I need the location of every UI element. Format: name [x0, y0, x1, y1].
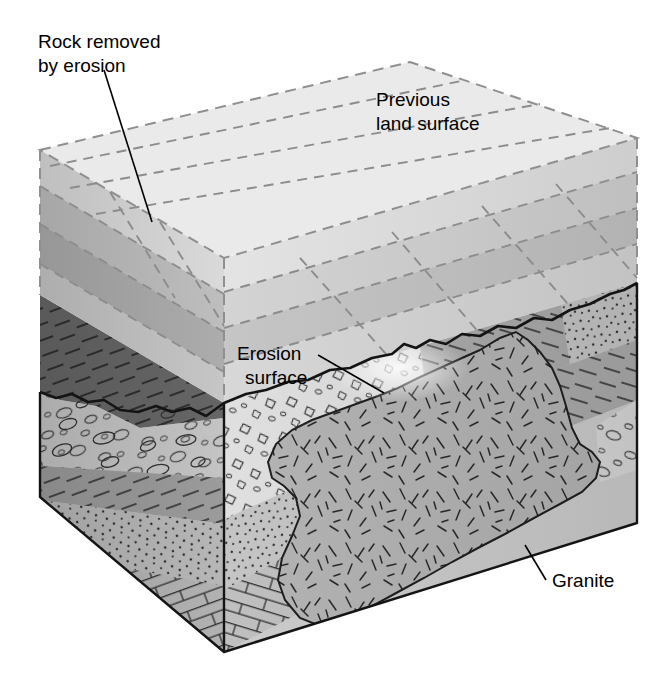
label-granite: Granite — [552, 570, 614, 591]
label-rock-removed-line1: Rock removed — [38, 31, 161, 52]
label-rock-removed: Rock removed by erosion — [38, 31, 166, 76]
label-previous-land-surface-line2: land surface — [376, 113, 480, 134]
geologic-block-diagram: Rock removed by erosion Previous land su… — [0, 0, 672, 682]
label-granite-line1: Granite — [552, 570, 614, 591]
label-previous-land-surface-line1: Previous — [376, 89, 450, 110]
label-rock-removed-line2: by erosion — [38, 55, 126, 76]
label-erosion-surface-line1: Erosion — [237, 343, 301, 364]
label-erosion-surface-line2: surface — [245, 367, 307, 388]
figure-root: Rock removed by erosion Previous land su… — [0, 0, 672, 682]
